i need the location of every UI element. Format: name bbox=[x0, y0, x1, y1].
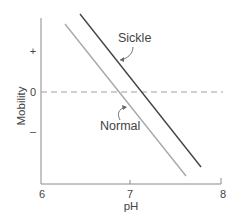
y-tick-label-zero: 0 bbox=[30, 86, 36, 98]
normal-series-line bbox=[65, 24, 186, 176]
x-axis-title: pH bbox=[124, 200, 139, 212]
y-axis-title: Mobility bbox=[15, 86, 27, 125]
normal-label: Normal bbox=[100, 119, 140, 133]
y-tick-label-minus: – bbox=[30, 125, 37, 137]
normal-arrowhead bbox=[122, 105, 127, 110]
mobility-vs-ph-chart: Sickle Normal + 0 – 6 7 8 pH Mobility bbox=[0, 0, 236, 224]
x-tick-label-6: 6 bbox=[39, 188, 45, 200]
x-tick-label-7: 7 bbox=[127, 188, 133, 200]
x-tick-label-8: 8 bbox=[220, 188, 226, 200]
sickle-annotation-arrow bbox=[120, 47, 133, 60]
sickle-label: Sickle bbox=[118, 31, 151, 45]
y-tick-label-plus: + bbox=[30, 45, 36, 57]
